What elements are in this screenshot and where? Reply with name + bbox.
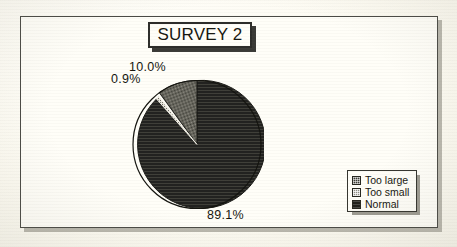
legend-swatch-icon-normal: [352, 200, 361, 209]
pie-svg: [130, 78, 264, 211]
chart-legend: Too large Too small Normal: [347, 170, 417, 212]
legend-swatch-icon-too-small: [352, 188, 361, 197]
data-label-normal: 89.1%: [207, 208, 244, 222]
legend-item-too-large: Too large: [352, 174, 413, 186]
chart-image: SURVEY 2: [0, 0, 457, 247]
legend-label-normal: Normal: [365, 199, 399, 210]
legend-label-too-large: Too large: [365, 175, 408, 186]
chart-title-box: SURVEY 2: [148, 22, 252, 48]
legend-label-too-small: Too small: [365, 187, 409, 198]
legend-item-normal: Normal: [352, 198, 413, 210]
legend-swatch-icon-too-large: [352, 176, 361, 185]
data-label-too-small: 0.9%: [111, 72, 141, 86]
page-title: SURVEY 2: [157, 25, 242, 45]
legend-item-too-small: Too small: [352, 186, 413, 198]
pie-chart: [130, 78, 264, 211]
